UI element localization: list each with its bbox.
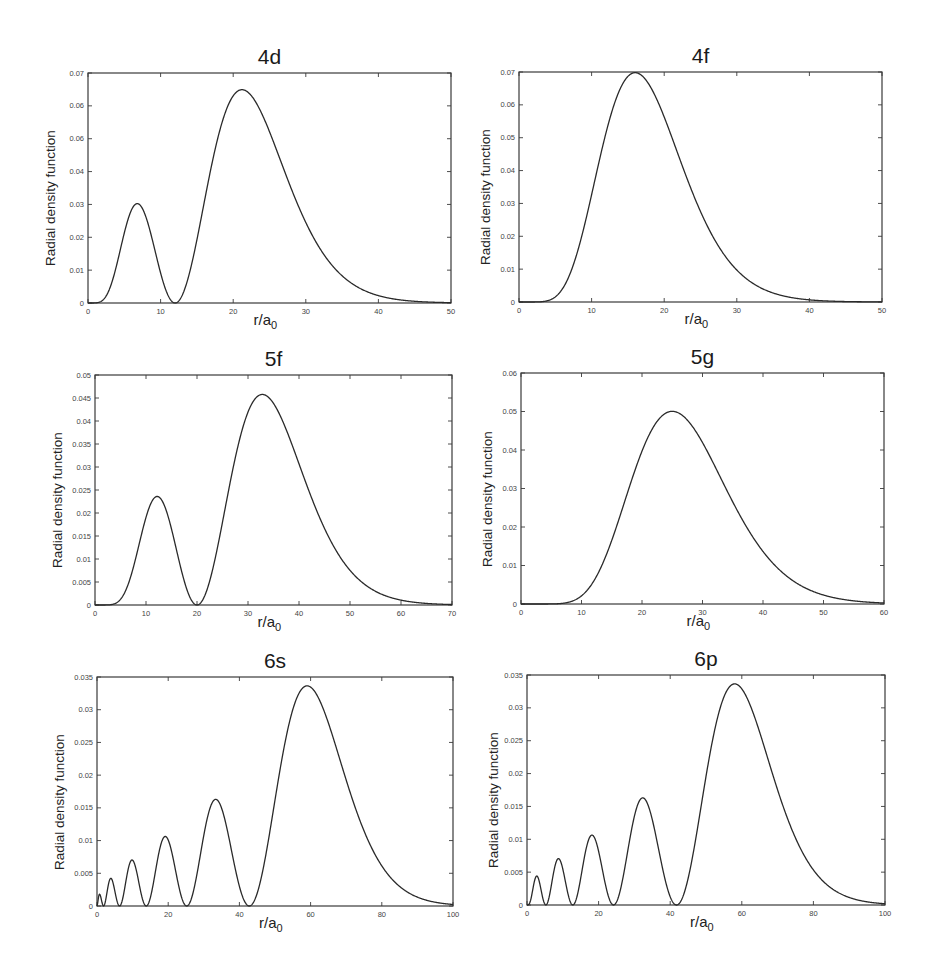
x-tick-label: 40 [666, 909, 674, 918]
x-tick-label: 60 [738, 909, 746, 918]
x-tick-label: 100 [879, 909, 892, 918]
y-tick-label: 0.025 [504, 736, 523, 745]
y-tick-label: 0.035 [504, 671, 523, 680]
y-tick-label: 0.01 [508, 835, 523, 844]
y-tick-label: 0.005 [504, 868, 523, 877]
y-tick-label: 0 [519, 901, 523, 910]
x-tick-label: 0 [525, 909, 529, 918]
plot-area: 00.0050.010.0150.020.0250.030.0350204060… [0, 0, 933, 968]
y-tick-label: 0.015 [504, 802, 523, 811]
x-tick-label: 20 [594, 909, 602, 918]
x-tick-label: 80 [809, 909, 817, 918]
y-tick-label: 0.02 [508, 769, 523, 778]
plot-frame [527, 675, 885, 905]
y-tick-label: 0.03 [508, 703, 523, 712]
density-curve [527, 684, 885, 905]
